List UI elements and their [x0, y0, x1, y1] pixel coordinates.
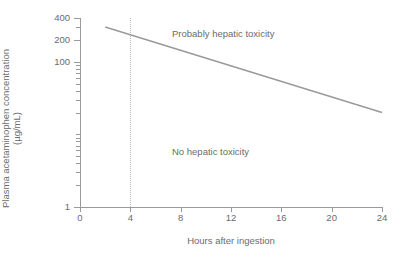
y-axis-line — [80, 18, 81, 208]
y-tick-minor — [76, 156, 80, 157]
y-tick-minor — [76, 163, 80, 164]
y-tick-minor — [76, 69, 80, 70]
hepatic-toxicity-threshold-line — [105, 27, 382, 112]
y-tick-minor — [76, 78, 80, 79]
y-tick-minor — [76, 27, 80, 28]
y-tick-minor — [76, 65, 80, 66]
x-tick-label: 16 — [266, 213, 296, 223]
y-tick-minor — [76, 185, 80, 186]
y-tick-minor — [76, 84, 80, 85]
y-tick-major — [74, 18, 80, 19]
y-tick-label: 100 — [0, 57, 70, 67]
y-tick-major — [74, 40, 80, 41]
y-tick-major — [74, 62, 80, 63]
y-tick-minor — [76, 141, 80, 142]
four-hour-reference-line — [130, 18, 132, 207]
y-tick-label: 200 — [0, 35, 70, 45]
probably-hepatic-toxicity-label: Probably hepatic toxicity — [172, 28, 274, 39]
y-tick-minor — [76, 134, 80, 135]
acetaminophen-nomogram-figure: Plasma acetaminophen concentration (µg/m… — [0, 0, 404, 257]
y-tick-minor — [76, 113, 80, 114]
x-tick-label: 4 — [115, 213, 145, 223]
x-axis-title: Hours after ingestion — [80, 235, 382, 246]
x-tick-label: 8 — [166, 213, 196, 223]
y-tick-minor — [76, 100, 80, 101]
x-tick-label: 24 — [367, 213, 397, 223]
y-tick-minor — [76, 172, 80, 173]
y-tick-minor — [76, 146, 80, 147]
y-tick-minor — [76, 91, 80, 92]
y-tick-minor — [76, 73, 80, 74]
x-tick-label: 12 — [216, 213, 246, 223]
y-tick-label: 400 — [0, 13, 70, 23]
x-tick-label: 20 — [317, 213, 347, 223]
y-tick-label: 1 — [0, 202, 70, 212]
y-tick-minor — [76, 150, 80, 151]
y-tick-minor — [76, 138, 80, 139]
no-hepatic-toxicity-label: No hepatic toxicity — [172, 146, 249, 157]
x-tick-label: 0 — [65, 213, 95, 223]
